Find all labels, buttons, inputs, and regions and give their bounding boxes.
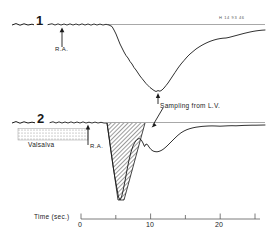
trace-1-group [12, 24, 265, 104]
sampling-arrow-lower [152, 108, 163, 127]
figure-root: 1 2 R.A. R.A. Sampling from L.V. Valsalv… [0, 0, 270, 237]
trace-2-ra-label: R.A. [90, 143, 103, 149]
valsalva-label: Valsalva [28, 141, 55, 148]
time-axis [81, 214, 260, 220]
axis-tick-label-10: 10 [146, 221, 154, 228]
trace-1-label: 1 [36, 13, 43, 28]
trace-2-group [12, 108, 265, 208]
sampling-from-lv-label: Sampling from L.V. [160, 102, 220, 109]
time-axis-label: Time (sec.) [34, 213, 70, 220]
trace-2-leadin [12, 122, 35, 124]
valsalva-duration-bar [18, 129, 88, 141]
trace-1-leadin [12, 24, 34, 26]
axis-tick-label-20: 20 [215, 221, 223, 228]
axis-tick-label-0: 0 [78, 221, 82, 228]
trace-1-curve [48, 24, 265, 92]
recorder-code-label: H 14 93 46 [219, 15, 245, 20]
trace-1-ra-label: R.A. [55, 46, 68, 52]
trace-2-label: 2 [37, 111, 44, 126]
trace-1-ra-marker [60, 28, 65, 48]
